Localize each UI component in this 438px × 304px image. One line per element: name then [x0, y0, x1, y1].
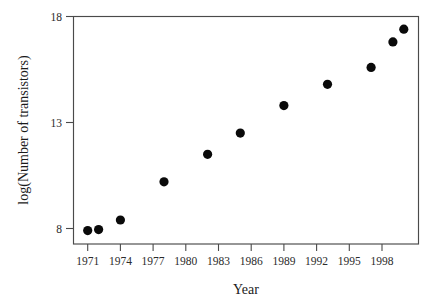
data-point [236, 129, 245, 138]
data-point [94, 225, 103, 234]
y-tick-label-8: 8 [56, 223, 62, 235]
x-tick-label-1992: 1992 [305, 255, 328, 267]
x-tick-label-1974: 1974 [109, 255, 132, 267]
data-point [116, 215, 125, 224]
y-axis-title: log(Number of transistors) [16, 55, 32, 205]
x-tick-label-1983: 1983 [207, 255, 230, 267]
chart-figure: 18 13 8 1971 1974 1977 1980 1983 1986 19… [0, 0, 438, 304]
y-tick-label-18: 18 [51, 11, 63, 23]
x-tick-label-1986: 1986 [240, 255, 263, 267]
x-tick-label-1977: 1977 [142, 255, 165, 267]
x-tick-label-1995: 1995 [338, 255, 361, 267]
data-point [367, 63, 376, 72]
x-axis-title: Year [233, 282, 259, 297]
x-tick-label-1971: 1971 [76, 255, 99, 267]
data-point [399, 25, 408, 34]
data-point [83, 226, 92, 235]
x-tick-label-1980: 1980 [174, 255, 197, 267]
x-tick-label-1989: 1989 [272, 255, 295, 267]
data-point [388, 37, 397, 46]
data-point [279, 101, 288, 110]
data-point [159, 177, 168, 186]
data-point [203, 150, 212, 159]
data-point [323, 80, 332, 89]
scatter-plot-svg: 18 13 8 1971 1974 1977 1980 1983 1986 19… [0, 0, 438, 304]
x-tick-label-1998: 1998 [371, 255, 394, 267]
y-tick-label-13: 13 [51, 117, 63, 129]
